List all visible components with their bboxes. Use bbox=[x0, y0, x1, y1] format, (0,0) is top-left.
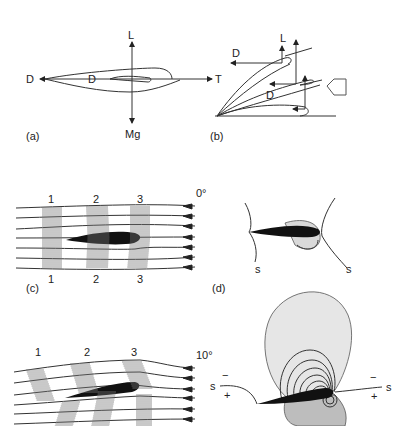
wing-stroke-2 bbox=[217, 64, 290, 116]
suction-region bbox=[265, 292, 352, 400]
drag-label: D bbox=[26, 73, 34, 85]
column-label-2-e: 2 bbox=[84, 346, 90, 358]
stroke-line-2 bbox=[300, 80, 322, 85]
wing-stroke-5 bbox=[217, 105, 308, 116]
airflow-arrow-icon bbox=[327, 79, 346, 95]
minus-label-left: − bbox=[222, 369, 228, 381]
panel-a-label: (a) bbox=[26, 130, 39, 142]
stroke-line-1 bbox=[285, 48, 312, 56]
weight-label: Mg bbox=[125, 128, 140, 140]
panel-c-label: (c) bbox=[26, 282, 39, 294]
column-label-2-bottom: 2 bbox=[93, 273, 99, 285]
wing-lower-outline bbox=[45, 79, 180, 92]
stagnation-label-left-f: s bbox=[210, 380, 216, 392]
airfoil-d bbox=[249, 226, 320, 237]
minus-label-right: − bbox=[370, 371, 376, 383]
panel-b-label: (b) bbox=[210, 130, 223, 142]
drag-label-mid: D bbox=[266, 89, 274, 101]
column-label-1-e: 1 bbox=[35, 346, 41, 358]
stagnation-line-right bbox=[322, 198, 347, 268]
panel-c: 1 2 3 1 2 3 0° (c) bbox=[16, 187, 207, 294]
column-label-1: 1 bbox=[48, 193, 54, 205]
lift-label: L bbox=[128, 29, 134, 41]
figure: L Mg D D T (a) L D D (b) bbox=[0, 0, 409, 426]
column-label-3-e: 3 bbox=[131, 346, 137, 358]
plus-label-left: + bbox=[224, 389, 230, 401]
panel-d: s s (d) bbox=[212, 198, 352, 294]
thrust-label: T bbox=[215, 73, 222, 85]
panel-f: − s + − s + bbox=[210, 292, 392, 426]
panel-d-label: (d) bbox=[212, 282, 225, 294]
angle-label-e: 10° bbox=[196, 349, 213, 361]
column-label-1-bottom: 1 bbox=[48, 273, 54, 285]
airfoil bbox=[66, 232, 140, 245]
stagnation-label-right: s bbox=[346, 263, 352, 275]
stagnation-label-right-f: s bbox=[386, 381, 392, 393]
drag-label-top: D bbox=[232, 47, 240, 59]
panel-a: L Mg D D T (a) bbox=[26, 29, 222, 142]
panel-e: 1 2 3 10° bbox=[14, 346, 213, 424]
wing-upper-outline bbox=[45, 68, 172, 79]
inner-drag-label: D bbox=[88, 73, 96, 85]
column-label-3-bottom: 3 bbox=[137, 273, 143, 285]
column-label-3: 3 bbox=[137, 193, 143, 205]
plus-label-right: + bbox=[371, 390, 377, 402]
inflow-arrows-e bbox=[183, 366, 192, 422]
stagnation-label-left: s bbox=[255, 263, 261, 275]
panel-b: L D D (b) bbox=[210, 32, 346, 142]
column-label-2: 2 bbox=[93, 193, 99, 205]
lift-label-b: L bbox=[280, 32, 286, 44]
angle-label: 0° bbox=[196, 187, 207, 199]
inflow-arrows bbox=[183, 204, 192, 270]
